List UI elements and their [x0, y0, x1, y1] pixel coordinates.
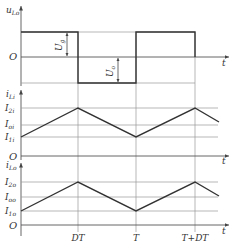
- level-label-i2i: I2i: [4, 103, 14, 114]
- time-tick-labels: DT T T+DT: [70, 233, 209, 243]
- panel-voltage: uLo O t Ug Uo: [6, 5, 229, 86]
- dim-label-ug: Ug: [54, 39, 66, 51]
- tick-label-t-plus-dt: T+DT: [182, 233, 210, 243]
- level-label-i1o: I1o: [4, 206, 16, 217]
- origin-label-voltage: O: [9, 51, 17, 62]
- xlabel-voltage: t: [222, 58, 226, 68]
- level-label-i2o: I2o: [4, 177, 16, 188]
- tick-label-t: T: [133, 233, 140, 243]
- origin-label-input-current: O: [9, 151, 17, 162]
- origin-label-output-current: O: [9, 220, 17, 231]
- converter-waveform-diagram: uLo O t Ug Uo iLi O t I2i Ioi I1i: [0, 0, 235, 248]
- xlabel-input-current: t: [222, 156, 226, 166]
- triangle-wave-output: [21, 182, 219, 211]
- level-label-ioo: Ioo: [4, 192, 16, 203]
- tick-label-dt: DT: [70, 233, 85, 243]
- dim-label-uo: Uo: [105, 65, 116, 77]
- ylabel-input-current: iLi: [6, 89, 15, 100]
- ylabel-voltage: uLo: [6, 5, 20, 16]
- xlabel-output-current: t: [222, 226, 226, 236]
- level-label-i1i: I1i: [4, 132, 14, 143]
- triangle-wave-input: [21, 108, 219, 137]
- level-label-ioi: Ioi: [4, 119, 14, 130]
